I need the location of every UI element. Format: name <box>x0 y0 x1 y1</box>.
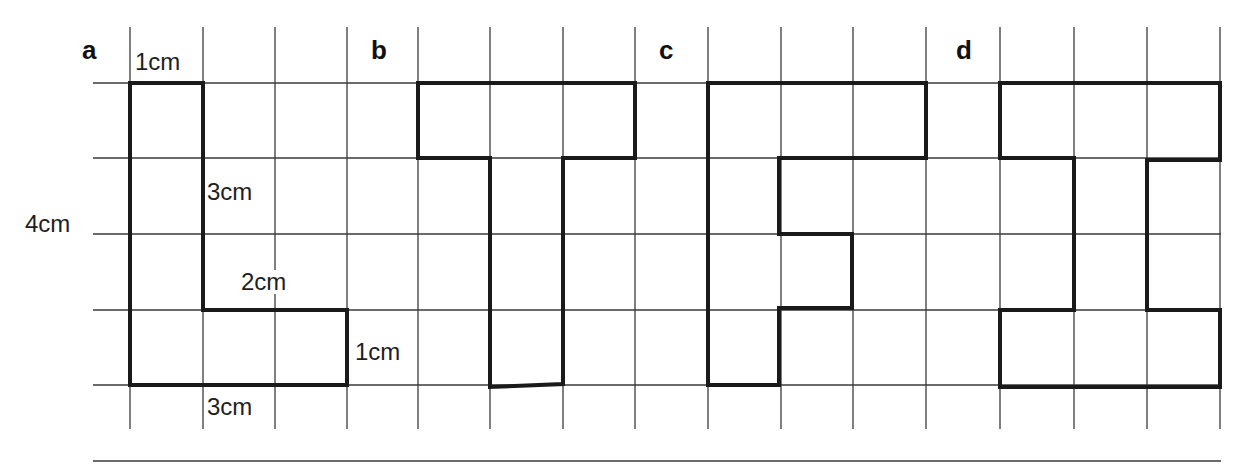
panel-label-b: b <box>371 37 387 63</box>
measure-total-height: 4cm <box>25 212 70 236</box>
panel-label-c: c <box>659 37 673 63</box>
grid-lines <box>93 27 1221 429</box>
measure-top-width: 1cm <box>135 50 180 74</box>
measure-base-width: 3cm <box>207 395 252 419</box>
panel-label-d: d <box>956 37 972 63</box>
panel-label-a: a <box>82 37 96 63</box>
measure-foot-length: 2cm <box>240 270 287 294</box>
shapes-on-grid-figure: a b c d 1cm 3cm 4cm 2cm 1cm 3cm <box>0 0 1241 466</box>
shape-b <box>418 83 635 387</box>
shape-outlines <box>130 83 1220 387</box>
grid-canvas <box>0 0 1241 466</box>
shape-d <box>1000 83 1220 387</box>
measure-inner-height: 3cm <box>207 180 252 204</box>
measure-foot-height: 1cm <box>355 340 400 364</box>
